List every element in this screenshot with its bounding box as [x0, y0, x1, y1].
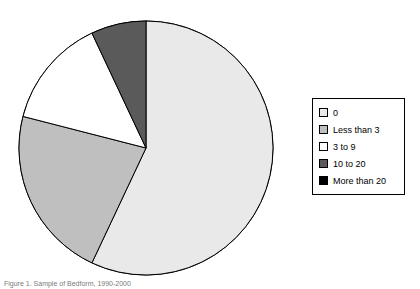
figure-caption: Figure 1. Sample of Bedform, 1990-2000 [4, 279, 264, 289]
legend-item-more-than-20[interactable]: More than 20 [319, 172, 399, 189]
legend-item-10-to-20[interactable]: 10 to 20 [319, 155, 399, 172]
legend-swatch-icon [319, 108, 328, 117]
legend-swatch-icon [319, 142, 328, 151]
legend-item-3-to-9[interactable]: 3 to 9 [319, 138, 399, 155]
legend-item-label: 3 to 9 [333, 142, 356, 152]
chart-legend: 0 Less than 3 3 to 9 10 to 20 More than … [312, 98, 405, 195]
legend-item-less-than-3[interactable]: Less than 3 [319, 121, 399, 138]
legend-swatch-icon [319, 176, 328, 185]
pie-plot-area [0, 0, 300, 289]
legend-item-0[interactable]: 0 [319, 104, 399, 121]
legend-item-label: More than 20 [333, 176, 386, 186]
legend-item-label: 0 [333, 108, 338, 118]
pie-svg [0, 0, 300, 289]
pie-chart-figure: 0 Less than 3 3 to 9 10 to 20 More than … [0, 0, 420, 289]
legend-item-label: 10 to 20 [333, 159, 366, 169]
pie-slice-group [19, 21, 273, 275]
legend-swatch-icon [319, 159, 328, 168]
legend-swatch-icon [319, 125, 328, 134]
legend-item-label: Less than 3 [333, 125, 380, 135]
